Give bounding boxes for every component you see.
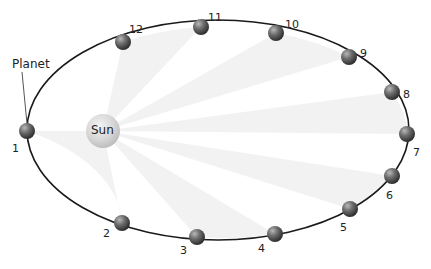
position-label: 6 <box>386 190 393 201</box>
planet-icon <box>341 49 357 65</box>
orbit-diagram: Planet Sun 123456789101112 <box>0 0 431 269</box>
position-label: 11 <box>208 12 222 23</box>
planet-icon <box>193 19 209 35</box>
planet-icon <box>114 215 130 231</box>
planet-icon <box>268 25 284 41</box>
planet-icon <box>115 34 131 50</box>
planet-label: Planet <box>12 58 50 70</box>
position-label: 9 <box>360 48 367 59</box>
position-label: 1 <box>12 143 19 154</box>
planet-icon <box>384 84 400 100</box>
planet-icon <box>189 229 205 245</box>
position-label: 7 <box>413 147 420 158</box>
position-label: 4 <box>258 243 265 254</box>
sun-label: Sun <box>91 124 114 136</box>
position-label: 8 <box>403 89 410 100</box>
position-label: 3 <box>180 245 187 256</box>
planet-leader-line <box>22 72 27 124</box>
planet-icon <box>267 226 283 242</box>
position-label: 2 <box>103 228 110 239</box>
position-label: 5 <box>340 222 347 233</box>
position-label: 12 <box>129 24 143 35</box>
planet-icon <box>342 201 358 217</box>
position-label: 10 <box>285 19 299 30</box>
planet-icon <box>19 123 35 139</box>
orbit-canvas <box>0 0 431 269</box>
planet-icon <box>384 168 400 184</box>
planet-icon <box>399 126 415 142</box>
